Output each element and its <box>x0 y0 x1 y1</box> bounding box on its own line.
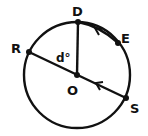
circle-geometry-diagram: D E R S O d° <box>0 0 148 136</box>
label-s: S <box>130 101 139 116</box>
angle-label: d° <box>56 51 71 65</box>
label-o: O <box>67 83 78 98</box>
point-d <box>75 19 81 25</box>
radius-od <box>77 22 78 75</box>
point-o <box>74 72 80 78</box>
point-s <box>123 95 129 101</box>
label-r: R <box>11 41 21 56</box>
label-e: E <box>121 31 130 46</box>
point-r <box>26 49 32 55</box>
label-d: D <box>72 4 83 19</box>
